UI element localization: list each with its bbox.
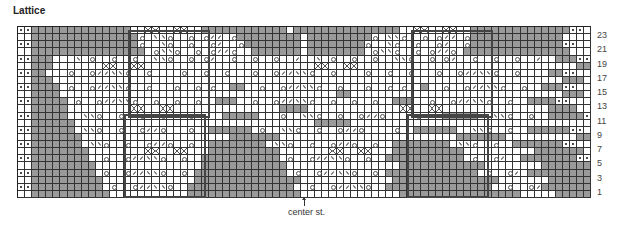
chart-cell bbox=[124, 184, 131, 191]
chart-cell bbox=[60, 84, 67, 91]
chart-cell bbox=[443, 56, 450, 63]
chart-cell bbox=[464, 177, 471, 184]
chart-cell bbox=[485, 162, 492, 169]
chart-cell bbox=[379, 77, 386, 84]
chart-cell bbox=[287, 191, 294, 198]
row-number: 13 bbox=[597, 102, 607, 111]
chart-cell bbox=[117, 98, 124, 105]
chart-cell bbox=[351, 41, 358, 48]
chart-cell bbox=[273, 113, 280, 120]
chart-cell bbox=[521, 63, 528, 70]
chart-cell bbox=[563, 27, 570, 34]
chart-cell bbox=[181, 41, 188, 48]
chart-cell bbox=[294, 127, 301, 134]
chart-cell bbox=[379, 91, 386, 98]
chart-cell bbox=[152, 155, 159, 162]
chart-cell bbox=[556, 155, 563, 162]
chart-cell bbox=[542, 56, 549, 63]
chart-cell bbox=[259, 105, 266, 112]
chart-cell bbox=[485, 91, 492, 98]
chart-cell bbox=[421, 162, 428, 169]
chart-cell bbox=[110, 105, 117, 112]
chart-cell bbox=[478, 48, 485, 55]
chart-cell bbox=[542, 91, 549, 98]
chart-cell bbox=[68, 155, 75, 162]
chart-cell bbox=[499, 155, 506, 162]
chart-cell bbox=[485, 63, 492, 70]
chart-cell bbox=[414, 148, 421, 155]
chart-cell bbox=[556, 63, 563, 70]
chart-cell bbox=[556, 48, 563, 55]
chart-cell bbox=[414, 77, 421, 84]
chart-cell bbox=[60, 191, 67, 198]
chart-cell bbox=[280, 141, 287, 148]
chart-cell bbox=[167, 27, 174, 34]
chart-cell bbox=[414, 191, 421, 198]
chart-cell bbox=[46, 70, 53, 77]
chart-cell bbox=[18, 98, 25, 105]
chart-cell bbox=[358, 98, 365, 105]
chart-cell bbox=[365, 105, 372, 112]
chart-cell bbox=[110, 113, 117, 120]
chart-cell bbox=[365, 84, 372, 91]
chart-cell bbox=[75, 41, 82, 48]
chart-cell bbox=[344, 155, 351, 162]
chart-cell bbox=[436, 56, 443, 63]
chart-cell bbox=[344, 141, 351, 148]
chart-cell bbox=[365, 170, 372, 177]
chart-cell bbox=[188, 162, 195, 169]
chart-cell bbox=[528, 148, 535, 155]
chart-cell bbox=[351, 162, 358, 169]
chart-cell bbox=[280, 184, 287, 191]
chart-cell bbox=[542, 34, 549, 41]
chart-cell bbox=[266, 120, 273, 127]
chart-cell bbox=[471, 134, 478, 141]
chart-cell bbox=[429, 170, 436, 177]
chart-cell bbox=[96, 48, 103, 55]
chart-cell bbox=[209, 77, 216, 84]
chart-cell bbox=[266, 177, 273, 184]
chart-cell bbox=[237, 27, 244, 34]
chart-cell bbox=[400, 48, 407, 55]
chart-cell bbox=[492, 113, 499, 120]
chart-cell bbox=[103, 113, 110, 120]
chart-cell bbox=[450, 105, 457, 112]
chart-cell bbox=[513, 34, 520, 41]
chart-cell bbox=[471, 155, 478, 162]
chart-cell bbox=[322, 77, 329, 84]
chart-cell bbox=[506, 91, 513, 98]
chart-cell bbox=[436, 98, 443, 105]
chart-cell bbox=[478, 84, 485, 91]
chart-cell bbox=[145, 98, 152, 105]
chart-cell bbox=[563, 127, 570, 134]
chart-cell bbox=[577, 127, 584, 134]
chart-cell bbox=[160, 84, 167, 91]
chart-cell bbox=[89, 77, 96, 84]
chart-cell bbox=[450, 184, 457, 191]
chart-cell bbox=[577, 113, 584, 120]
chart-cell bbox=[513, 177, 520, 184]
chart-cell bbox=[273, 91, 280, 98]
chart-cell bbox=[365, 77, 372, 84]
chart-cell bbox=[436, 155, 443, 162]
chart-cell bbox=[280, 56, 287, 63]
chart-cell bbox=[414, 105, 421, 112]
chart-cell bbox=[379, 184, 386, 191]
chart-cell bbox=[96, 63, 103, 70]
chart-cell bbox=[223, 191, 230, 198]
chart-cell bbox=[245, 148, 252, 155]
chart-cell bbox=[273, 134, 280, 141]
chart-cell bbox=[577, 170, 584, 177]
chart-cell bbox=[223, 184, 230, 191]
chart-cell bbox=[124, 120, 131, 127]
chart-cell bbox=[492, 127, 499, 134]
chart-cell bbox=[145, 48, 152, 55]
chart-cell bbox=[556, 127, 563, 134]
chart-cell bbox=[181, 170, 188, 177]
chart-cell bbox=[96, 184, 103, 191]
chart-cell bbox=[421, 48, 428, 55]
chart-cell bbox=[499, 91, 506, 98]
chart-cell bbox=[570, 70, 577, 77]
chart-cell bbox=[549, 127, 556, 134]
chart-cell bbox=[450, 91, 457, 98]
